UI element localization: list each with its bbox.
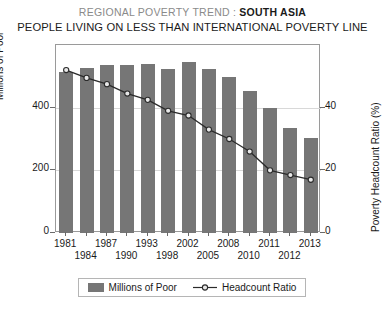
x-tick-mark-1990 (126, 232, 127, 236)
bar-swatch-icon (88, 283, 104, 292)
x-tick-mark-2013 (310, 232, 311, 236)
right-axis-title: Poverty Headcount Ratio (%) (370, 102, 381, 232)
bar-1987 (100, 65, 114, 233)
left-axis-title: Millions of Poor (0, 32, 5, 100)
x-tick-mark-2012 (289, 232, 290, 236)
x-axis-label-1987: 1987 (89, 238, 123, 249)
left-tick-label-400: 400 (16, 100, 49, 111)
x-tick-mark-2008 (228, 232, 229, 236)
bar-2011 (263, 108, 277, 233)
bar-1990 (120, 65, 134, 233)
x-axis-label-2008: 2008 (211, 238, 245, 249)
x-axis-label-2005: 2005 (191, 250, 225, 261)
x-tick-mark-2005 (208, 232, 209, 236)
x-tick-mark-2002 (188, 232, 189, 236)
bar-2012 (283, 128, 297, 233)
chart-title-region: REGIONAL POVERTY TREND : (79, 6, 236, 18)
x-axis-label-2013: 2013 (293, 238, 327, 249)
bar-2002 (182, 62, 196, 233)
x-axis-label-2012: 2012 (272, 250, 306, 261)
bars-layer (56, 45, 321, 233)
x-axis-label-2002: 2002 (171, 238, 205, 249)
x-axis-label-1984: 1984 (69, 250, 103, 261)
bar-1981 (59, 72, 73, 233)
right-tick-mark-40 (320, 107, 325, 108)
x-axis-label-1990: 1990 (109, 250, 143, 261)
bar-1998 (161, 69, 175, 233)
bar-1984 (80, 68, 94, 233)
x-tick-mark-2010 (249, 232, 250, 236)
bar-2010 (243, 91, 257, 233)
legend-item-line[interactable]: Headcount Ratio (193, 282, 297, 293)
chart-legend: Millions of Poor Headcount Ratio (78, 278, 306, 297)
plot-area (55, 44, 320, 232)
legend-label-line: Headcount Ratio (222, 282, 297, 293)
x-axis-label-2011: 2011 (252, 238, 286, 249)
left-tick-label-0: 0 (16, 225, 49, 236)
x-tick-mark-1981 (65, 232, 66, 236)
bar-2005 (202, 69, 216, 233)
line-marker-icon (193, 283, 217, 292)
left-tick-mark-400 (50, 107, 55, 108)
chart-root: REGIONAL POVERTY TREND : SOUTH ASIA PEOP… (0, 0, 385, 311)
bar-1993 (141, 64, 155, 233)
left-tick-mark-200 (50, 169, 55, 170)
chart-title-line1: REGIONAL POVERTY TREND : SOUTH ASIA (0, 6, 385, 18)
x-tick-mark-1984 (86, 232, 87, 236)
right-tick-mark-0 (320, 232, 325, 233)
legend-label-bars: Millions of Poor (109, 282, 177, 293)
x-axis-label-1993: 1993 (130, 238, 164, 249)
x-tick-mark-1987 (106, 232, 107, 236)
chart-title-subject: SOUTH ASIA (239, 6, 306, 18)
right-tick-mark-20 (320, 169, 325, 170)
left-tick-mark-0 (50, 232, 55, 233)
bar-2013 (304, 138, 318, 233)
x-tick-mark-2011 (269, 232, 270, 236)
x-tick-mark-1998 (167, 232, 168, 236)
right-tick-label-40: 40 (325, 100, 349, 111)
right-tick-label-0: 0 (325, 225, 349, 236)
x-axis-label-2010: 2010 (232, 250, 266, 261)
x-axis-label-1998: 1998 (150, 250, 184, 261)
x-tick-mark-1993 (147, 232, 148, 236)
chart-subtitle: PEOPLE LIVING ON LESS THAN INTERNATIONAL… (0, 21, 385, 33)
left-tick-label-200: 200 (16, 162, 49, 173)
right-tick-label-20: 20 (325, 162, 349, 173)
x-axis-label-1981: 1981 (48, 238, 82, 249)
bar-2008 (222, 77, 236, 233)
legend-item-bars[interactable]: Millions of Poor (88, 282, 177, 293)
